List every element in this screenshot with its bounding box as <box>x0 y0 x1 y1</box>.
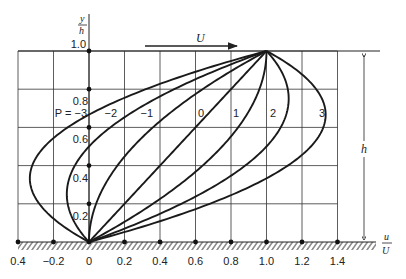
tick-labels: 0.4−0.200.20.40.60.81.01.21.40.20.40.60.… <box>10 38 345 267</box>
curve-label: 0 <box>198 107 204 119</box>
x-tick-dot <box>193 240 198 245</box>
height-label: h <box>361 142 367 156</box>
x-tick-dot <box>229 240 234 245</box>
x-tick-label: 1.2 <box>294 255 309 267</box>
velocity-profile-curve <box>89 51 289 242</box>
x-tick-label: 1.4 <box>330 255 345 267</box>
x-tick-label: −0.2 <box>43 255 65 267</box>
y-tick-label: 0.6 <box>73 133 88 145</box>
x-axis-label-numerator: u <box>384 231 389 242</box>
x-tick-dot <box>122 240 127 245</box>
plate-velocity-label: U <box>196 31 206 45</box>
x-tick-label: 1.0 <box>259 255 274 267</box>
y-tick-dot <box>87 87 92 92</box>
curve-label: −1 <box>140 107 153 119</box>
x-tick-dot <box>264 240 269 245</box>
x-tick-label: 0.2 <box>117 255 132 267</box>
y-tick-dot <box>87 201 92 206</box>
x-tick-dot <box>87 240 92 245</box>
y-axis-label-denominator: h <box>79 25 84 36</box>
y-tick-label: 0.4 <box>73 172 88 184</box>
curve-label: −2 <box>104 107 117 119</box>
y-tick-label: 0.8 <box>73 95 88 107</box>
couette-flow-diagram: 0.4−0.200.20.40.60.81.01.21.40.20.40.60.… <box>0 0 406 279</box>
y-tick-dot <box>87 125 92 130</box>
x-tick-dot <box>300 240 305 245</box>
x-tick-label: 0.4 <box>10 255 25 267</box>
y-tick-label: 1.0 <box>71 38 86 50</box>
x-tick-dot <box>16 240 21 245</box>
curve-label: 3 <box>319 107 325 119</box>
curve-label: 1 <box>233 107 239 119</box>
x-tick-dot <box>335 240 340 245</box>
x-tick-dot <box>51 240 56 245</box>
y-tick-dot <box>87 49 92 54</box>
y-axis-label-numerator: y <box>79 13 85 24</box>
velocity-profile-curve <box>67 51 267 242</box>
velocity-profile-curve <box>89 51 267 242</box>
curve-label: 2 <box>270 107 276 119</box>
x-axis-label-denominator: U <box>382 245 390 256</box>
x-tick-label: 0.6 <box>188 255 203 267</box>
y-tick-label: 0.2 <box>73 210 88 222</box>
x-tick-label: 0 <box>86 255 92 267</box>
x-tick-label: 0.8 <box>223 255 238 267</box>
y-tick-dot <box>87 163 92 168</box>
x-tick-dot <box>158 240 163 245</box>
curve-label-p-minus-3: P = −3 <box>55 107 87 119</box>
x-tick-label: 0.4 <box>152 255 167 267</box>
